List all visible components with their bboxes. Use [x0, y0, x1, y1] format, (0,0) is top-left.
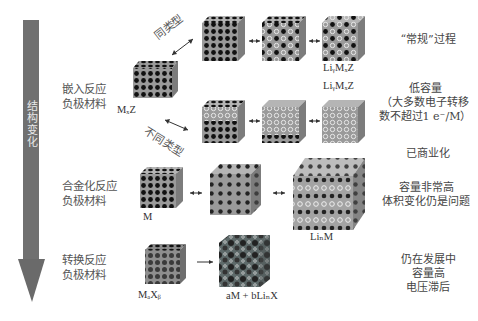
- note-line: 数不超过1 e⁻/M）: [372, 110, 478, 124]
- reversible-arrow: [273, 191, 285, 195]
- cube-m: [140, 167, 183, 208]
- formula-conversion-product: aM + bLiₙX: [226, 289, 278, 301]
- formula-text: aM + bLiₙX: [226, 290, 278, 301]
- forward-arrow: [197, 260, 213, 264]
- category-line: 负极材料: [62, 268, 106, 283]
- same-type-arrow: [172, 39, 193, 55]
- axis-label: 结构变化: [23, 100, 39, 148]
- axis-label-text: 结构变化: [25, 100, 38, 148]
- note-line: “常规”过程: [380, 33, 476, 47]
- cube-diff-2: [262, 100, 306, 143]
- reversible-arrow: [190, 191, 202, 195]
- note-line: 已商业化: [380, 147, 476, 161]
- formula-m: M: [143, 211, 152, 222]
- reversible-arrow: [249, 119, 260, 123]
- category-intercalation: 嵌入反应 负极材料: [62, 82, 106, 112]
- structure-change-arrow: [18, 20, 45, 302]
- formula-li-n-m: LiₙM: [310, 230, 333, 242]
- note-low-capacity: 低容量 （大多数电子转移 数不超过1 e⁻/M）: [372, 82, 478, 124]
- category-line: 负极材料: [62, 97, 106, 112]
- formula-text: MₓZ: [117, 104, 136, 115]
- note-line: 体积变化仍是问题: [374, 195, 478, 209]
- cube-diff-3: [322, 100, 365, 143]
- cube-conversion-product: [219, 235, 270, 287]
- note-conversion: 仍在发展中 容量高 电压滞后: [380, 253, 476, 295]
- reversible-arrow: [249, 39, 260, 43]
- cube-diff-1: [202, 100, 245, 143]
- note-line: 电压滞后: [380, 281, 476, 295]
- note-line: 容量非常高: [374, 181, 478, 195]
- note-commercialized: 已商业化: [380, 147, 476, 161]
- formula-li-y-m-x-z-top: LiᵧMₓZ: [323, 62, 354, 73]
- formula-text: MₐXᵦ: [138, 289, 161, 300]
- cube-alloy-mid: [210, 164, 261, 215]
- formula-text: M: [143, 211, 152, 222]
- note-line: 容量高: [380, 267, 476, 281]
- category-conversion: 转换反应 负极材料: [62, 253, 106, 283]
- note-conventional: “常规”过程: [380, 33, 476, 47]
- cube-same-2: [262, 16, 306, 61]
- note-alloy: 容量非常高 体积变化仍是问题: [374, 181, 478, 209]
- formula-mxz: MₓZ: [117, 104, 136, 115]
- cube-mxz: [133, 61, 178, 98]
- note-line: （大多数电子转移: [372, 96, 478, 110]
- formula-text: LiₙM: [310, 231, 333, 242]
- category-line: 嵌入反应: [62, 82, 106, 97]
- cube-ma-xb: [145, 244, 186, 284]
- category-line: 合金化反应: [62, 179, 117, 194]
- cube-li-n-m: [293, 158, 365, 230]
- category-line: 转换反应: [62, 253, 106, 268]
- note-line: 低容量: [372, 82, 478, 96]
- formula-text: LiᵧMₓZ: [323, 62, 354, 73]
- formula-ma-xb: MₐXᵦ: [138, 289, 161, 300]
- category-line: 负极材料: [62, 194, 117, 209]
- cube-same-3: [322, 16, 365, 61]
- note-line: 仍在发展中: [380, 253, 476, 267]
- reversible-arrow: [309, 39, 320, 43]
- formula-text: LiᵧMₓZ: [323, 80, 354, 91]
- cube-same-1: [202, 16, 245, 61]
- formula-li-y-m-x-z-bottom: LiᵧMₓZ: [323, 80, 354, 91]
- reversible-arrow: [309, 119, 320, 123]
- category-alloying: 合金化反应 负极材料: [62, 179, 117, 209]
- different-type-arrow: [165, 119, 188, 131]
